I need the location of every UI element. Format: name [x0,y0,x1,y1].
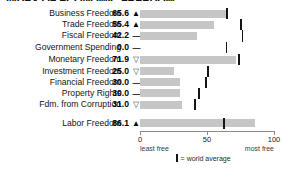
row-plot-area [140,66,274,77]
row-score-value: 30.0 [103,77,129,88]
row-plot-area [140,42,274,53]
row-plot-area [140,19,274,30]
score-bar [140,10,228,18]
world-average-tick [223,118,225,129]
chart-row: Property Rights30.0— [0,88,282,99]
row-score-value: 65.6 [103,8,129,19]
chart-row: Monetary Freedom71.9▽ [0,54,282,65]
world-average-tick [207,66,209,77]
chart-row: Business Freedom65.6▲ [0,8,282,19]
score-bar [140,101,182,109]
axis-caption-least-free: least free [140,145,169,152]
row-plot-area [140,8,274,19]
world-average-tick [240,19,242,30]
chart-row: Labor Freedom86.1▲ [0,118,282,129]
x-axis-label-100: 100 [268,135,281,144]
row-plot-area [140,118,274,129]
row-plot-area [140,88,274,99]
legend: = world average [176,154,231,162]
world-average-tick [226,8,228,19]
x-axis-label-0: 0 [138,135,142,144]
score-bar [140,21,214,29]
world-average-tick [194,99,196,110]
row-score-value: 55.4 [103,19,129,30]
world-average-tick [205,77,207,88]
world-average-marker-icon [176,154,178,162]
row-score-value: 86.1 [103,118,129,129]
chart-row: Trade Freedom55.4▲ [0,19,282,30]
row-plot-area [140,99,274,110]
world-average-tick [198,88,200,99]
world-average-tick [242,30,244,41]
world-average-tick [238,54,240,65]
row-score-value: 0.0 [103,42,129,53]
chart-row: Government Spending0.0— [0,42,282,53]
row-score-value: 42.2 [103,30,129,41]
row-plot-area [140,54,274,65]
chart-row: Fiscal Freedom42.2— [0,30,282,41]
chart-title: INDEX OF ECONOMIC FREEDOM [6,0,175,1]
row-score-value: 30.0 [103,88,129,99]
score-bar [140,56,236,64]
legend-label: = world average [181,155,231,162]
score-bar [140,32,197,40]
row-score-value: 31.0 [103,99,129,110]
score-bar [140,78,180,86]
chart-row: Financial Freedom30.0— [0,77,282,88]
x-axis-label-50: 50 [203,135,211,144]
chart-row: Fdm. from Corruption31.0▽ [0,99,282,110]
row-plot-area [140,77,274,88]
row-plot-area [140,30,274,41]
row-score-value: 25.0 [103,66,129,77]
axis-caption-most-free: most free [245,145,274,152]
economic-freedom-bar-chart: Business Freedom65.6▲Trade Freedom55.4▲F… [0,8,282,132]
score-bar [140,67,174,75]
chart-row: Investment Freedom25.0▽ [0,66,282,77]
score-bar [140,89,180,97]
score-bar [140,119,255,127]
world-average-tick [226,42,228,53]
row-score-value: 71.9 [103,54,129,65]
